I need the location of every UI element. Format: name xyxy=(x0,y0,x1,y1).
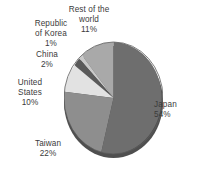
pie-chart-svg xyxy=(64,41,163,158)
pie-label-republic-of-korea: Republic of Korea 1% xyxy=(24,19,78,50)
pie-label-united-states: United States 10% xyxy=(4,78,56,109)
pie-label-taiwan: Taiwan 22% xyxy=(22,139,74,159)
pie-label-japan: Japan 54% xyxy=(154,100,196,120)
pie-slices xyxy=(64,42,162,154)
pie-label-china: China 2% xyxy=(22,50,72,70)
pie-chart xyxy=(64,41,163,158)
chart-page: Rest of the world 11% Republic of Korea … xyxy=(0,0,197,179)
